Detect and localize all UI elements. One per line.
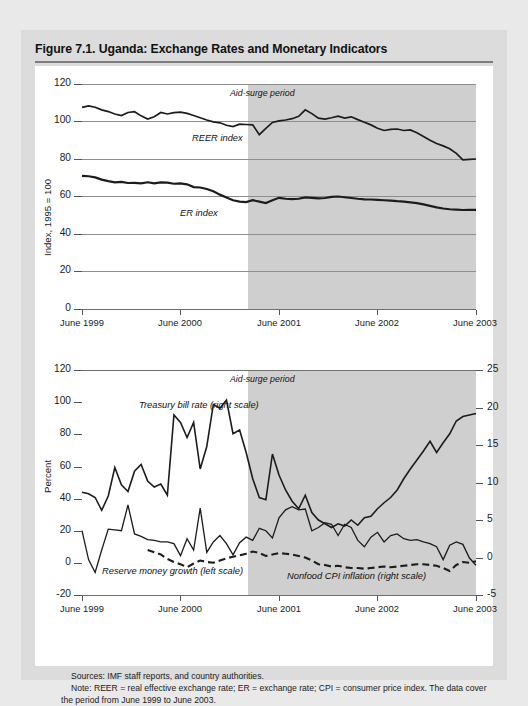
ytick-100-top: 100 <box>35 114 71 125</box>
ytick-mark-0-top <box>74 309 82 310</box>
rytick-15: 15 <box>487 438 498 449</box>
aid-surge-label-top: Aid-surge period <box>230 88 295 98</box>
nonfood-cpi-inflation-label: Nonfood CPI inflation (right scale) <box>287 571 426 581</box>
xtick-mark-2003-bottom <box>476 596 477 601</box>
xtick-mark-2003-top <box>476 310 477 315</box>
ytick-neg20-bottom: -20 <box>35 588 71 599</box>
ytick-0-top: 0 <box>35 302 71 313</box>
ytick-40-top: 40 <box>35 227 71 238</box>
ytick-mark-20-top <box>74 271 82 272</box>
xtick-2003-top: June 2003 <box>441 317 509 328</box>
xtick-1999-bottom: June 1999 <box>49 603 115 614</box>
ytick-mark-40-top <box>74 234 82 235</box>
ytick-mark-100-bottom <box>74 402 82 403</box>
rytick-neg5: -5 <box>487 588 496 599</box>
figure-inner-panel: Aid-surge period REER index ER index 120… <box>35 66 493 666</box>
ytick-mark-neg20-bottom <box>74 595 82 596</box>
ytick-80-top: 80 <box>35 152 71 163</box>
xtick-mark-2000-bottom <box>180 596 181 601</box>
ytick-mark-80-bottom <box>74 434 82 435</box>
ytick-mark-120-bottom <box>74 370 82 371</box>
er-index-label: ER index <box>180 208 218 218</box>
xtick-2003-bottom: June 2003 <box>441 603 509 614</box>
ytick-60-top: 60 <box>35 189 71 200</box>
xtick-mark-2001-top <box>279 310 280 315</box>
xtick-1999-top: June 1999 <box>49 317 115 328</box>
y-axis-title-bottom: Percent <box>42 460 53 493</box>
ytick-20-bottom: 20 <box>35 524 71 535</box>
xtick-mark-2001-bottom <box>279 596 280 601</box>
treasury-bill-rate-label: Treasury bill rate (right scale) <box>139 400 259 410</box>
xtick-mark-2002-top <box>377 310 378 315</box>
er-index-line <box>82 176 476 210</box>
ytick-mark-0-bottom <box>74 563 82 564</box>
ytick-mark-120-top <box>74 84 82 85</box>
ytick-mark-80-top <box>74 159 82 160</box>
ytick-mark-40-bottom <box>74 499 82 500</box>
plot-area-top: Aid-surge period REER index ER index <box>82 84 476 309</box>
reer-index-label: REER index <box>192 133 243 143</box>
figure-panel: Figure 7.1. Uganda: Exchange Rates and M… <box>21 30 507 680</box>
plot-area-bottom: Aid-surge period Treasury bill rate (rig… <box>82 370 476 595</box>
ytick-80-bottom: 80 <box>35 427 71 438</box>
ytick-mark-60-top <box>74 196 82 197</box>
ytick-60-bottom: 60 <box>35 460 71 471</box>
rytick-mark-10 <box>476 483 483 484</box>
ytick-mark-100-top <box>74 121 82 122</box>
rytick-20: 20 <box>487 401 498 412</box>
rytick-10: 10 <box>487 476 498 487</box>
rytick-mark-0 <box>476 558 483 559</box>
xtick-2000-top: June 2000 <box>147 317 213 328</box>
ytick-mark-60-bottom <box>74 467 82 468</box>
y-axis-title-top: Index, 1995 = 100 <box>42 179 53 256</box>
xtick-2001-bottom: June 2001 <box>246 603 312 614</box>
sources-note: Sources: IMF staff reports, and country … <box>61 670 491 682</box>
rytick-mark-15 <box>476 445 483 446</box>
series-lines-top <box>82 84 476 310</box>
ytick-120-top: 120 <box>35 77 71 88</box>
rytick-mark-5 <box>476 520 483 521</box>
ytick-0-bottom: 0 <box>35 556 71 567</box>
rytick-0: 0 <box>487 551 493 562</box>
rytick-mark-25 <box>476 370 483 371</box>
rytick-mark-neg5 <box>476 595 483 596</box>
xtick-mark-1999-top <box>82 310 83 315</box>
figure-notes: Sources: IMF staff reports, and country … <box>61 670 491 706</box>
ytick-40-bottom: 40 <box>35 492 71 503</box>
xtick-2000-bottom: June 2000 <box>147 603 213 614</box>
xtick-mark-2000-top <box>180 310 181 315</box>
ytick-20-top: 20 <box>35 264 71 275</box>
rytick-5: 5 <box>487 513 493 524</box>
xtick-mark-1999-bottom <box>82 596 83 601</box>
reserve-money-growth-label: Reserve money growth (left scale) <box>102 566 243 576</box>
figure-title: Figure 7.1. Uganda: Exchange Rates and M… <box>35 42 495 56</box>
title-divider <box>35 61 493 63</box>
figure-page: Figure 7.1. Uganda: Exchange Rates and M… <box>0 0 528 706</box>
rytick-25: 25 <box>487 363 498 374</box>
reserve-money-growth-line <box>82 505 476 573</box>
general-note: Note: REER = real effective exchange rat… <box>61 682 491 706</box>
ytick-120-bottom: 120 <box>35 363 71 374</box>
xtick-2001-top: June 2001 <box>246 317 312 328</box>
chart-exchange-rates: Aid-surge period REER index ER index 120… <box>35 66 493 356</box>
ytick-mark-20-bottom <box>74 531 82 532</box>
reer-index-line <box>82 106 476 160</box>
xtick-mark-2002-bottom <box>377 596 378 601</box>
xtick-2002-top: June 2002 <box>344 317 410 328</box>
ytick-100-bottom: 100 <box>35 395 71 406</box>
treasury-bill-rate-line <box>82 400 476 528</box>
xtick-2002-bottom: June 2002 <box>344 603 410 614</box>
aid-surge-label-bottom: Aid-surge period <box>230 374 295 384</box>
chart-monetary-indicators: Aid-surge period Treasury bill rate (rig… <box>35 356 493 666</box>
rytick-mark-20 <box>476 408 483 409</box>
